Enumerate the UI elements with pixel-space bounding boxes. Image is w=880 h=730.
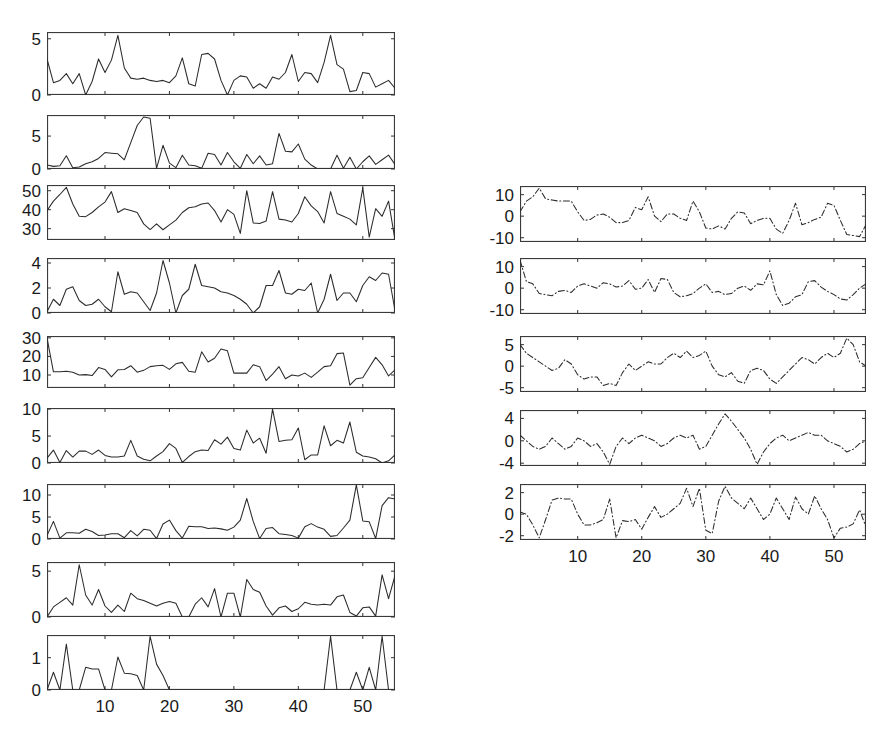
plot-axes-box (521, 337, 866, 392)
plot-axes-box (48, 186, 395, 240)
plot-panel-left-8 (47, 562, 395, 617)
plot-panel-left-6 (47, 408, 395, 463)
x-tick-label: 30 (209, 698, 259, 715)
x-tick-label: 50 (338, 698, 388, 715)
y-tick-label: 0 (0, 531, 41, 548)
y-tick-label: -10 (458, 230, 514, 247)
series-line-left-6 (47, 409, 395, 463)
y-tick-label: 5 (0, 563, 41, 580)
x-tick-label: 40 (273, 698, 323, 715)
y-tick-label: 0 (0, 682, 41, 699)
y-tick-label: 4 (458, 410, 514, 427)
plot-axes-box (48, 33, 395, 95)
y-tick-label: 20 (0, 348, 41, 365)
series-line-left-4 (47, 261, 401, 314)
plot-axes-box (48, 116, 395, 169)
series-line-left-1 (47, 35, 395, 95)
y-tick-label: -10 (458, 302, 514, 319)
y-tick-label: 5 (0, 509, 41, 526)
y-tick-label: 1 (0, 650, 41, 667)
y-tick-label: 4 (0, 255, 41, 272)
x-tick-label: 50 (809, 548, 859, 565)
y-tick-label: 2 (458, 485, 514, 502)
y-tick-label: 0 (0, 609, 41, 626)
plot-panel-right-5 (520, 484, 866, 540)
plot-panel-right-4 (520, 410, 866, 466)
x-tick-label: 10 (80, 698, 130, 715)
y-tick-label: 0 (458, 506, 514, 523)
plot-panel-left-2 (47, 115, 395, 169)
x-tick-label: 30 (681, 548, 731, 565)
y-tick-label: 50 (0, 183, 41, 200)
y-tick-label: -2 (458, 528, 514, 545)
x-tick-label: 10 (553, 548, 603, 565)
plot-axes-box (48, 409, 395, 463)
plot-axes-box (521, 485, 866, 540)
y-tick-label: 5 (0, 128, 41, 145)
series-line-right-3 (520, 338, 866, 385)
y-tick-label: 10 (0, 487, 41, 504)
y-tick-label: 40 (0, 202, 41, 219)
series-line-left-8 (47, 565, 408, 617)
y-tick-label: 0 (458, 208, 514, 225)
plot-axes-box (48, 636, 395, 690)
plot-axes-box (521, 411, 866, 466)
y-tick-label: -5 (458, 380, 514, 397)
y-tick-label: 30 (0, 330, 41, 347)
y-tick-label: 2 (0, 280, 41, 297)
x-tick-label: 20 (144, 698, 194, 715)
y-tick-label: 0 (0, 161, 41, 178)
y-tick-label: 10 (458, 259, 514, 276)
y-tick-label: 30 (0, 221, 41, 238)
y-tick-label: 0 (458, 280, 514, 297)
plot-panel-left-4 (47, 258, 395, 313)
y-tick-label: 5 (458, 337, 514, 354)
y-tick-label: 0 (458, 433, 514, 450)
y-tick-label: 5 (0, 428, 41, 445)
series-line-right-1 (520, 188, 866, 236)
y-tick-label: 0 (458, 358, 514, 375)
plot-panel-left-5 (47, 336, 395, 388)
series-line-right-4 (520, 414, 866, 464)
y-tick-label: 10 (0, 401, 41, 418)
plot-panel-right-2 (520, 258, 866, 314)
plot-axes-box (48, 485, 395, 539)
y-tick-label: 0 (0, 455, 41, 472)
series-line-left-2 (47, 117, 395, 169)
series-line-left-5 (47, 338, 408, 385)
plot-panel-left-1 (47, 32, 395, 95)
plot-panel-right-1 (520, 186, 866, 242)
y-tick-label: 10 (0, 367, 41, 384)
plot-axes-box (521, 187, 866, 242)
y-tick-label: 0 (0, 87, 41, 104)
series-line-right-5 (520, 486, 866, 538)
x-tick-label: 40 (745, 548, 795, 565)
plot-axes-box (48, 337, 395, 388)
x-tick-label: 20 (617, 548, 667, 565)
y-tick-label: -4 (458, 455, 514, 472)
plot-axes-box (521, 259, 866, 314)
plot-panel-left-3 (47, 185, 395, 240)
y-tick-label: 0 (0, 305, 41, 322)
series-line-left-7 (47, 485, 414, 539)
y-tick-label: 10 (458, 187, 514, 204)
plot-panel-right-3 (520, 336, 866, 392)
plot-axes-box (48, 563, 395, 617)
figure-canvas: 0505304050024102030051005100501102030405… (0, 0, 880, 730)
series-line-right-2 (520, 260, 866, 305)
series-line-left-9 (47, 636, 395, 690)
plot-panel-left-9 (47, 635, 395, 690)
y-tick-label: 5 (0, 31, 41, 48)
plot-panel-left-7 (47, 484, 395, 539)
series-line-left-3 (47, 187, 421, 240)
plot-axes-box (48, 259, 395, 313)
